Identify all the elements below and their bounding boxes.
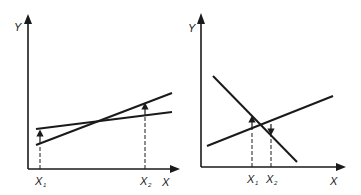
right-x1-tick-label: X 1 (246, 173, 258, 186)
left-x-label: X (161, 176, 170, 188)
left-flat-line (36, 112, 172, 129)
diagram-canvas: Y X X 1 X 2 Y X X 1 X 2 (0, 0, 361, 195)
right-increasing-line (207, 96, 333, 146)
svg-text:X: X (139, 175, 148, 187)
right-x-label: X (329, 175, 338, 187)
left-steep-line (36, 93, 172, 145)
left-x2-tick-label: X 2 (139, 175, 152, 188)
left-diagram: Y X X 1 X 2 (14, 14, 180, 188)
svg-text:1: 1 (255, 180, 258, 186)
left-x-arrow-icon (170, 165, 180, 173)
svg-text:X: X (34, 175, 43, 187)
svg-text:X: X (246, 173, 255, 185)
left-y-label: Y (14, 21, 22, 33)
right-x-arrow-icon (336, 163, 346, 171)
svg-text:2: 2 (273, 180, 278, 186)
left-x1-tick-label: X 1 (34, 175, 46, 188)
left-y-arrow-icon (24, 14, 32, 24)
right-x2-tick-label: X 2 (265, 173, 278, 186)
svg-text:2: 2 (147, 182, 152, 188)
right-diagram: Y X X 1 X 2 (188, 13, 346, 187)
right-y-arrow-icon (197, 13, 205, 24)
svg-text:1: 1 (43, 182, 46, 188)
right-y-label: Y (188, 22, 196, 34)
right-decreasing-line (213, 76, 297, 162)
svg-text:X: X (265, 173, 274, 185)
